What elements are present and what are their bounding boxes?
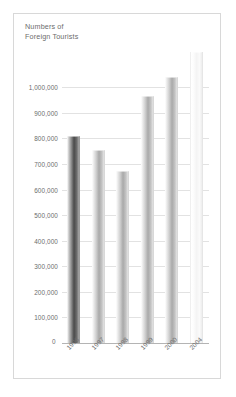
y-axis-tick-label: 300,000 (34, 263, 58, 270)
y-axis-tick-label: 100,000 (34, 314, 58, 321)
y-axis-zero-label: 0 (52, 338, 56, 345)
y-axis-tick-label: 200,000 (34, 288, 58, 295)
plot-area: 1,000,000900,000800,000700,000600,000500… (62, 49, 209, 344)
y-axis-tick-label: 700,000 (34, 161, 58, 168)
bar-1997[interactable] (92, 150, 105, 343)
x-axis-tick-labels: 199619971998199920002004 (62, 346, 209, 386)
y-axis-tick-label: 900,000 (34, 109, 58, 116)
y-axis-tick-label: 1,000,000 (29, 84, 58, 91)
bar-cap (165, 76, 178, 78)
bar-cap (67, 135, 80, 137)
y-axis-tick-label: 400,000 (34, 237, 58, 244)
bar-cap (191, 51, 202, 53)
y-axis-tick-label: 500,000 (34, 212, 58, 219)
bar-cap (92, 149, 105, 151)
chart-frame: Numbers of Foreign Tourists 1,000,000900… (13, 13, 221, 379)
bar-1998[interactable] (116, 171, 129, 343)
x-axis-line (62, 343, 209, 344)
y-axis-tick-label: 600,000 (34, 186, 58, 193)
bar-1996[interactable] (67, 136, 80, 343)
bar-cap (116, 170, 129, 172)
bar-cap (141, 95, 154, 97)
y-axis-tick-label: 800,000 (34, 135, 58, 142)
bar-series (62, 49, 209, 343)
bar-1999[interactable] (141, 96, 154, 343)
bar-2004[interactable] (190, 52, 203, 343)
bar-2000[interactable] (165, 77, 178, 343)
chart-title: Numbers of Foreign Tourists (25, 22, 78, 41)
